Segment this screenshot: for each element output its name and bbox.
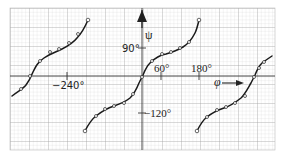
phi-axis-label: φ [214, 77, 221, 88]
phase-plot [0, 0, 282, 161]
x-tick-label-60: 60° [154, 63, 169, 74]
x-tick-label-180: 180° [191, 63, 212, 74]
y-tick-label-neg120: −120° [144, 108, 171, 119]
y-tick-label-90: 90° [122, 43, 140, 54]
graph-paper-grid [10, 8, 275, 150]
x-tick-label-neg240: −240° [52, 80, 84, 91]
psi-axis-label: ψ [145, 30, 153, 41]
